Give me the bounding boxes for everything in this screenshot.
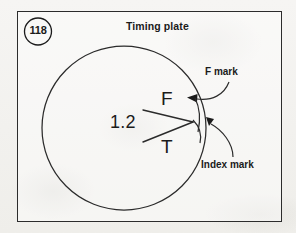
figure-number: 118 (25, 25, 51, 36)
figure-title: Timing plate (126, 21, 189, 32)
figure-118-timing-plate: 118 Timing plate 1.2 F T F mark Index ma… (0, 0, 296, 233)
f-mark-leader-line (197, 82, 229, 99)
index-mark-callout-label: Index mark (201, 160, 254, 170)
index-mark-leader-line (211, 124, 233, 157)
timing-tick-upper (143, 110, 193, 122)
f-mark-callout-label: F mark (205, 67, 238, 77)
f-mark-glyph: F (161, 89, 173, 108)
t-mark-glyph: T (161, 137, 173, 156)
timing-value-label: 1.2 (110, 113, 136, 131)
f-mark-leader-tail (195, 98, 200, 132)
